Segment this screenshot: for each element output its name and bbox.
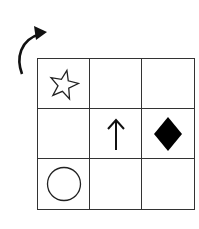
circle-outline-icon <box>46 166 82 202</box>
cell-r3-c3 <box>142 159 194 209</box>
cell-r2-c1 <box>38 109 90 159</box>
star-outline-icon <box>47 67 81 101</box>
cell-r1-c1 <box>38 59 90 109</box>
up-arrow-icon <box>106 116 126 152</box>
grid-3x3 <box>37 58 195 210</box>
cell-r2-c3 <box>142 109 194 159</box>
cell-r1-c3 <box>142 59 194 109</box>
cell-r1-c2 <box>90 59 142 109</box>
cell-r2-c2 <box>90 109 142 159</box>
cell-r3-c2 <box>90 159 142 209</box>
filled-diamond-icon <box>153 116 183 152</box>
cell-r3-c1 <box>38 159 90 209</box>
